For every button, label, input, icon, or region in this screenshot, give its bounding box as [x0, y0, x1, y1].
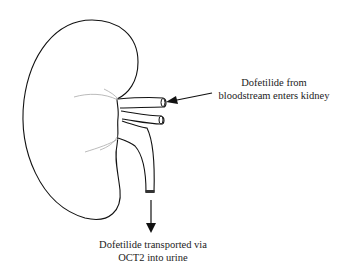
- outflow-label-line2: OCT2 into urine: [88, 251, 218, 264]
- hilum-line-upper: [74, 89, 118, 100]
- outflow-arrowhead: [146, 223, 156, 233]
- inflow-label-line1: Dofetilide from: [214, 76, 334, 89]
- inflow-label-line2: bloodstream enters kidney: [214, 89, 334, 102]
- hilum-line-lower: [85, 137, 118, 152]
- inflow-arrowhead: [166, 96, 178, 104]
- kidney-outline: [23, 20, 138, 219]
- inflow-label: Dofetilide from bloodstream enters kidne…: [214, 76, 334, 102]
- outflow-label-line1: Dofetilide transported via: [88, 238, 218, 251]
- ureter: [118, 121, 154, 192]
- outflow-label: Dofetilide transported via OCT2 into uri…: [88, 238, 218, 264]
- inflow-arrow-shaft: [172, 93, 212, 101]
- renal-artery: [118, 98, 166, 108]
- artery-opening: [161, 99, 165, 107]
- renal-vein: [121, 111, 164, 124]
- kidney-diagram: [0, 0, 338, 269]
- vein-opening: [159, 116, 163, 124]
- ureter-opening: [146, 190, 155, 193]
